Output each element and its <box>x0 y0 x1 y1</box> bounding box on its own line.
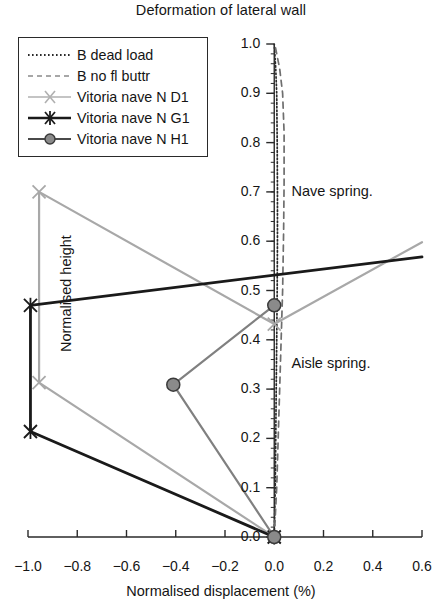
y-tick-label: 0.1 <box>216 479 260 495</box>
zone-label: Nave spring. <box>291 183 372 199</box>
y-tick-label: 0.0 <box>216 528 260 544</box>
y-tick-label: 0.4 <box>216 331 260 347</box>
legend-swatch-dashed-icon <box>26 67 73 85</box>
y-tick-label: 0.9 <box>216 84 260 100</box>
y-tick-label: 1.0 <box>216 35 260 51</box>
y-tick-label: 0.2 <box>216 429 260 445</box>
legend-item: B no fl buttr <box>26 65 200 86</box>
x-axis-label: Normalised displacement (%) <box>0 583 442 599</box>
legend-swatch-circle-marker-icon <box>26 130 73 148</box>
legend-label: Vitoria nave N G1 <box>73 110 190 126</box>
data-point-marker <box>167 378 180 391</box>
y-tick-label: 0.3 <box>216 380 260 396</box>
x-tick-label: 0.6 <box>392 558 442 574</box>
y-tick-label: 0.5 <box>216 282 260 298</box>
y-tick-label: 0.8 <box>216 134 260 150</box>
legend-label: B no fl buttr <box>73 68 150 84</box>
legend-swatch-x-marker-icon <box>26 88 73 106</box>
legend-label: Vitoria nave N H1 <box>73 131 189 147</box>
y-axis-label: Normalised height <box>58 235 74 352</box>
legend-item: Vitoria nave N G1 <box>26 107 200 128</box>
y-tick-label: 0.6 <box>216 232 260 248</box>
legend-item: Vitoria nave N D1 <box>26 86 200 107</box>
chart-figure: Deformation of lateral wall Normalised h… <box>0 0 442 616</box>
legend-item: Vitoria nave N H1 <box>26 128 200 149</box>
zone-label: Aisle spring. <box>291 355 370 371</box>
legend-swatch-dotted-icon <box>26 46 73 64</box>
legend-item: B dead load <box>26 44 200 65</box>
data-point-marker <box>268 531 281 544</box>
chart-legend: B dead load B no fl buttr Vitoria nave N… <box>18 37 208 157</box>
y-tick-label: 0.7 <box>216 183 260 199</box>
data-point-marker <box>268 299 281 312</box>
legend-label: B dead load <box>73 47 153 63</box>
legend-swatch-asterisk-marker-icon <box>26 109 73 127</box>
legend-label: Vitoria nave N D1 <box>73 89 189 105</box>
series-line-3 <box>30 257 422 537</box>
